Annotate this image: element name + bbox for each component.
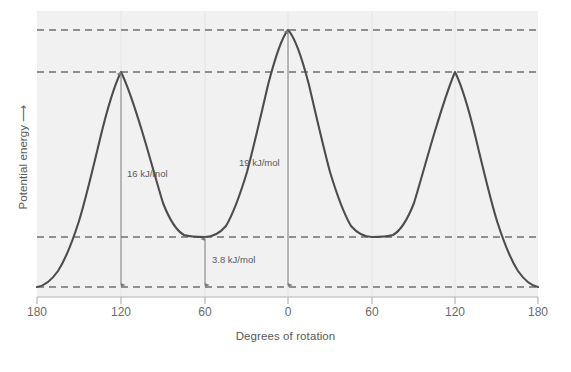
annotation-label-3-8: 3.8 kJ/mol	[212, 254, 255, 265]
annotation-label-16: 16 kJ/mol	[127, 168, 168, 179]
x-tick-label-1: 120	[101, 305, 141, 319]
x-tick-label-6: 180	[518, 305, 558, 319]
x-axis	[37, 297, 538, 304]
y-axis-label: Potential energy ⟶	[16, 62, 30, 252]
x-tick-label-2: 60	[185, 305, 225, 319]
x-tick-label-5: 120	[435, 305, 475, 319]
potential-energy-chart: Potential energy ⟶ 180 120 60 0 60 120 1…	[0, 0, 571, 372]
annotation-label-19: 19 kJ/mol	[239, 157, 280, 168]
x-tick-label-0: 180	[17, 305, 57, 319]
x-tick-label-3: 0	[268, 305, 308, 319]
x-axis-label: Degrees of rotation	[0, 330, 571, 342]
x-tick-label-4: 60	[352, 305, 392, 319]
